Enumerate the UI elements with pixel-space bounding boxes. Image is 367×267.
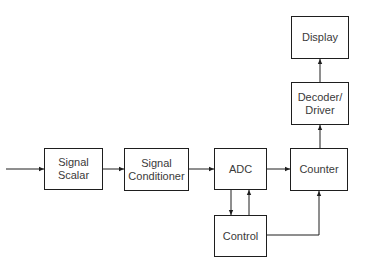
counter-block: Counter xyxy=(290,148,348,191)
adc-block: ADC xyxy=(214,148,267,190)
control-block: Control xyxy=(214,215,267,257)
signal-scalar-block: Signal Scalar xyxy=(44,148,103,190)
display-block: Display xyxy=(291,16,349,59)
control-label: Control xyxy=(223,230,258,243)
display-label: Display xyxy=(302,31,338,44)
control-to-counter-arrow xyxy=(267,191,319,235)
signal-conditioner-label: Signal Conditioner xyxy=(128,157,184,183)
decoder-driver-label: Decoder/ Driver xyxy=(298,91,343,117)
signal-scalar-label: Signal Scalar xyxy=(58,156,89,182)
counter-label: Counter xyxy=(299,163,338,176)
decoder-driver-block: Decoder/ Driver xyxy=(291,82,349,125)
signal-conditioner-block: Signal Conditioner xyxy=(124,148,189,191)
adc-label: ADC xyxy=(229,163,252,176)
